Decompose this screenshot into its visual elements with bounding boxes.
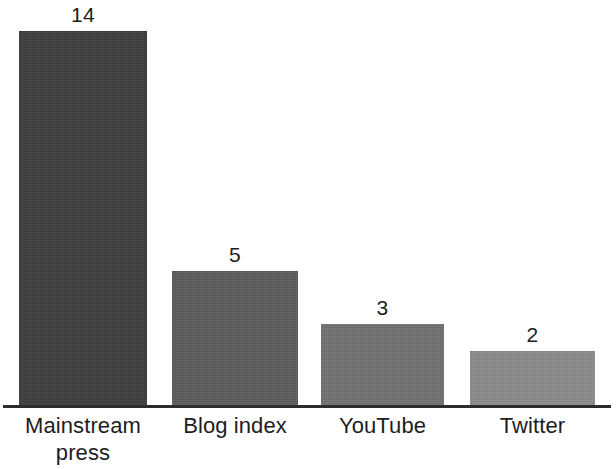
category-label-line1: Twitter xyxy=(500,413,566,438)
bar-value-label: 5 xyxy=(172,244,298,265)
bar-group-blog-index: 5 xyxy=(172,271,298,407)
bar-youtube[interactable] xyxy=(321,324,444,407)
bar-value-label: 14 xyxy=(19,4,147,25)
x-axis-baseline xyxy=(3,405,611,408)
category-label-youtube: YouTube xyxy=(321,412,444,439)
bar-chart: 14 5 3 2 Mainstream press Blog index xyxy=(0,0,616,469)
bar-value-label: 2 xyxy=(470,324,595,345)
category-label-twitter: Twitter xyxy=(470,412,595,439)
category-label-mainstream-press: Mainstream press xyxy=(19,412,147,466)
bar-group-mainstream-press: 14 xyxy=(19,31,147,407)
category-label-line1: Blog index xyxy=(183,413,287,438)
bar-blog-index[interactable] xyxy=(172,271,298,407)
category-label-blog-index: Blog index xyxy=(172,412,298,439)
bar-value-label: 3 xyxy=(321,297,444,318)
x-axis-category-labels: Mainstream press Blog index YouTube Twit… xyxy=(0,412,616,469)
plot-area: 14 5 3 2 xyxy=(0,0,616,407)
category-label-line1: YouTube xyxy=(339,413,426,438)
bar-twitter[interactable] xyxy=(470,351,595,407)
bar-mainstream-press[interactable] xyxy=(19,31,147,407)
bar-group-twitter: 2 xyxy=(470,351,595,407)
category-label-line2: press xyxy=(19,439,147,466)
bar-group-youtube: 3 xyxy=(321,324,444,407)
category-label-line1: Mainstream xyxy=(25,413,141,438)
